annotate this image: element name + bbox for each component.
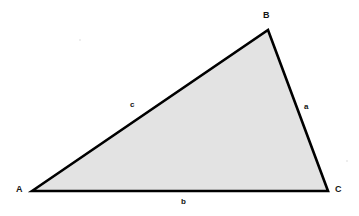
diagram-canvas: A B C a b c bbox=[0, 0, 359, 216]
vertex-label-b: B bbox=[263, 11, 270, 20]
side-label-c: c bbox=[130, 101, 135, 109]
background-speck bbox=[79, 39, 81, 41]
vertex-label-c: C bbox=[335, 185, 342, 194]
side-label-b: b bbox=[181, 198, 186, 206]
side-label-a: a bbox=[304, 103, 309, 111]
triangle-shape bbox=[32, 30, 328, 191]
background-speck bbox=[346, 160, 348, 162]
vertex-label-a: A bbox=[16, 185, 23, 194]
